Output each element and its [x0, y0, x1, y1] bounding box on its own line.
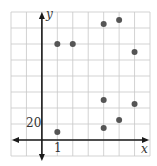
y-axis-label: y [46, 8, 53, 20]
x-tick-label: 1 [54, 142, 62, 154]
y-axis-down-arrow-icon [39, 154, 45, 161]
data-point [54, 129, 60, 135]
data-point [116, 17, 122, 23]
x-axis-left-arrow-icon [12, 137, 19, 143]
scatter-plot [0, 0, 157, 166]
data-point [132, 101, 138, 107]
axes [12, 12, 149, 161]
data-point [101, 21, 107, 27]
data-point [70, 41, 76, 47]
x-axis-label: x [141, 143, 148, 155]
data-point [101, 125, 107, 131]
data-point [101, 97, 107, 103]
y-axis-up-arrow-icon [39, 12, 45, 19]
grid-lines [11, 12, 150, 156]
data-point [54, 41, 60, 47]
data-point [132, 49, 138, 55]
y-tick-label: 20 [26, 117, 41, 129]
data-point [116, 117, 122, 123]
